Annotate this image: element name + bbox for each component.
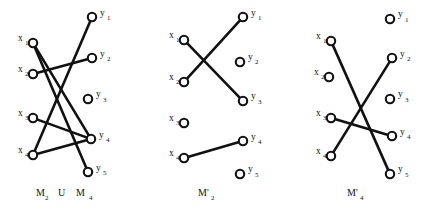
node-label-y5: y (248, 164, 253, 174)
node-label-y3: y (96, 89, 101, 99)
node-subscript-y5: 5 (405, 171, 409, 179)
node-subscript-x2: 2 (25, 70, 29, 78)
node-label-y2: y (400, 49, 405, 59)
node-y2 (236, 58, 244, 66)
node-label-y4: y (251, 132, 256, 142)
node-label-y5: y (398, 164, 403, 174)
edge-x4-y1 (35, 21, 90, 150)
node-label-x1: x (169, 30, 174, 40)
node-y1 (239, 13, 247, 21)
node-y4 (87, 135, 95, 143)
node-subscript-x3: 3 (25, 114, 29, 122)
node-label-x4: x (316, 146, 321, 156)
panel-caption-operator: U (58, 187, 66, 198)
node-label-y2: y (100, 49, 105, 59)
panel-union: x1x2x3x4y1y2y3y4y5M2UM4 (18, 8, 111, 202)
panel-caption: M' (347, 187, 358, 198)
node-subscript-x4: 4 (176, 154, 180, 162)
bipartite-graph-figure: x1x2x3x4y1y2y3y4y5M2UM4x1x2x3x4y1y2y3y4y… (0, 0, 426, 221)
edge-x4-y4 (189, 142, 239, 156)
panel-caption: M (36, 187, 45, 198)
node-label-y1: y (398, 9, 403, 19)
node-subscript-x4: 4 (25, 151, 29, 159)
node-y5 (236, 170, 244, 178)
node-label-y4: y (400, 127, 405, 137)
node-y3 (239, 97, 247, 105)
node-x2 (325, 73, 333, 81)
node-label-x4: x (169, 148, 174, 158)
node-label-x2: x (18, 64, 23, 74)
node-subscript-y4: 4 (106, 136, 110, 144)
node-label-x2: x (314, 67, 319, 77)
node-label-y4: y (99, 130, 104, 140)
node-x4 (327, 152, 335, 160)
node-x3 (29, 114, 37, 122)
panel-m4-prime: x1x2x3x4y1y2y3y4y5M'4 (314, 9, 411, 202)
node-x1 (29, 39, 37, 47)
node-label-x4: x (18, 145, 23, 155)
node-y5 (84, 168, 92, 176)
node-y1 (88, 13, 96, 21)
node-label-x2: x (169, 72, 174, 82)
node-subscript-y5: 5 (103, 169, 107, 177)
node-y5 (386, 170, 394, 178)
node-label-y1: y (251, 8, 256, 18)
node-x4 (29, 151, 37, 159)
node-x2 (29, 70, 37, 78)
node-subscript-y4: 4 (407, 133, 411, 141)
node-subscript-x1: 1 (323, 37, 327, 45)
node-x3 (327, 114, 335, 122)
node-x4 (180, 154, 188, 162)
node-subscript-y2: 2 (407, 55, 411, 63)
node-subscript-x3: 3 (176, 119, 180, 127)
node-x1 (327, 37, 335, 45)
panel-caption: M' (198, 187, 209, 198)
node-subscript-y3: 3 (405, 96, 409, 104)
node-y4 (388, 132, 396, 140)
figure-container: x1x2x3x4y1y2y3y4y5M2UM4x1x2x3x4y1y2y3y4y… (0, 0, 426, 221)
node-subscript-x1: 1 (25, 39, 29, 47)
node-label-x1: x (18, 33, 23, 43)
node-subscript-y3: 3 (103, 96, 107, 104)
node-label-x3: x (18, 108, 23, 118)
node-label-y2: y (248, 52, 253, 62)
node-subscript-y1: 1 (107, 14, 111, 22)
node-label-y3: y (251, 91, 256, 101)
node-label-y1: y (100, 8, 105, 18)
node-subscript-y1: 1 (258, 14, 262, 22)
node-subscript-y3: 3 (258, 98, 262, 106)
node-label-x1: x (316, 31, 321, 41)
node-subscript-x2: 2 (321, 73, 325, 81)
node-subscript-y1: 1 (405, 16, 409, 24)
node-label-x3: x (316, 108, 321, 118)
node-y1 (386, 15, 394, 23)
node-x2 (180, 78, 188, 86)
node-y3 (84, 95, 92, 103)
node-subscript-y2: 2 (255, 58, 259, 66)
edge-x4-y2 (334, 62, 390, 152)
edge-x3-y4 (336, 119, 388, 134)
node-subscript-x3: 3 (323, 114, 327, 122)
node-subscript-x4: 4 (323, 152, 327, 160)
panel-caption-subscript: 2 (45, 194, 49, 202)
node-subscript-y2: 2 (107, 55, 111, 63)
panel-caption-subscript: 4 (360, 194, 364, 202)
node-label-x3: x (169, 113, 174, 123)
node-y3 (386, 95, 394, 103)
node-x3 (180, 119, 188, 127)
node-y4 (239, 137, 247, 145)
node-subscript-x1: 1 (176, 36, 180, 44)
node-y2 (88, 54, 96, 62)
node-label-y5: y (96, 163, 101, 173)
node-subscript-y5: 5 (255, 171, 259, 179)
node-y2 (388, 54, 396, 62)
node-label-y3: y (398, 89, 403, 99)
node-x1 (180, 36, 188, 44)
node-subscript-y4: 4 (258, 138, 262, 146)
panel-caption-second-subscript: 4 (89, 194, 93, 202)
panel-caption-subscript: 2 (211, 194, 215, 202)
panel-m2-prime: x1x2x3x4y1y2y3y4y5M'2 (169, 8, 262, 202)
panel-caption-second: M (76, 187, 85, 198)
node-subscript-x2: 2 (176, 78, 180, 86)
